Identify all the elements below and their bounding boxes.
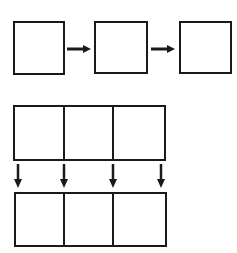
arrow-head xyxy=(157,179,165,188)
sequence-boxes xyxy=(14,22,231,74)
arrow-down-icon xyxy=(109,164,117,188)
arrow-head xyxy=(167,45,175,53)
sequence-box-1 xyxy=(14,22,64,74)
arrow-head xyxy=(14,179,22,188)
sequence-box-3 xyxy=(180,22,231,73)
arrow-head xyxy=(83,45,91,53)
bottom-grid-frame xyxy=(15,193,166,246)
top-grid xyxy=(14,106,165,160)
top-grid-frame xyxy=(14,106,165,160)
arrow-right-icon xyxy=(67,45,91,53)
arrow-right-icon xyxy=(151,45,175,53)
sequence-box-2 xyxy=(95,22,147,73)
diagram-canvas xyxy=(0,0,237,253)
arrow-down-icon xyxy=(60,164,68,188)
arrow-head xyxy=(109,179,117,188)
arrow-head xyxy=(60,179,68,188)
down-arrows xyxy=(14,164,165,188)
bottom-grid xyxy=(15,193,166,246)
sequence-arrows xyxy=(67,45,175,53)
arrow-down-icon xyxy=(157,164,165,188)
arrow-down-icon xyxy=(14,164,22,188)
